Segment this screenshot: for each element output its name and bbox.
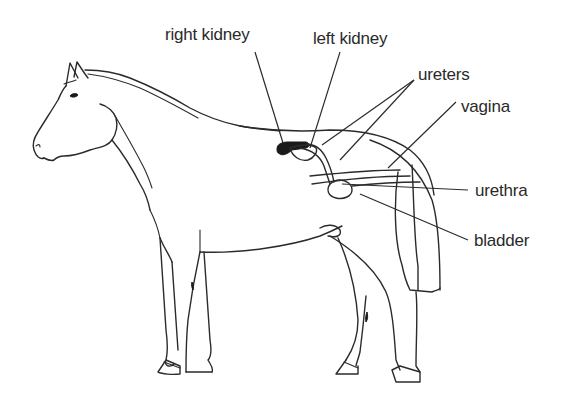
horse-front-legs [158,238,213,374]
horse-urogenital-diagram: right kidney left kidney ureters vagina … [0,0,574,395]
label-left-kidney: left kidney [313,30,387,47]
label-ureters: ureters [418,66,470,83]
horse-body [160,126,440,292]
horse-hind-legs [330,236,420,382]
label-bladder: bladder [474,232,529,249]
label-urethra: urethra [475,182,527,199]
bladder-shape [328,180,352,199]
label-vagina: vagina [461,98,510,115]
label-right-kidney: right kidney [165,26,250,43]
horse-neck [85,70,280,238]
